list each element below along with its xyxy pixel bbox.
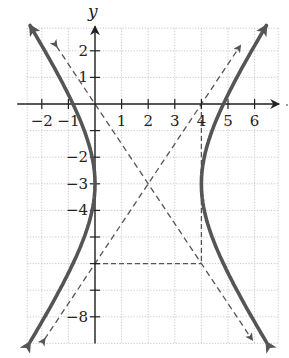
y-axis-label: y <box>87 1 98 21</box>
y-tick-label: 2 <box>78 42 88 60</box>
x-tick-label: 3 <box>170 112 180 130</box>
x-tick-label: 1 <box>117 112 127 130</box>
x-tick-label: 2 <box>143 112 153 130</box>
y-tick-label: 1 <box>78 68 88 86</box>
hyperbola-right-branch <box>201 26 266 343</box>
x-tick-label: −1 <box>57 112 79 130</box>
x-tick-label: 4 <box>197 112 207 130</box>
y-tick-label: −8 <box>66 308 88 326</box>
x-tick-label: 6 <box>250 112 260 130</box>
y-tick-label: −3 <box>66 175 88 193</box>
x-tick-label: −2 <box>31 112 53 130</box>
hyperbola-chart: −2−112345621−2−3−4−8 y <box>0 0 289 358</box>
y-tick-label: −2 <box>66 148 88 166</box>
x-tick-label: 5 <box>223 112 233 130</box>
y-tick-label: −4 <box>66 201 88 219</box>
